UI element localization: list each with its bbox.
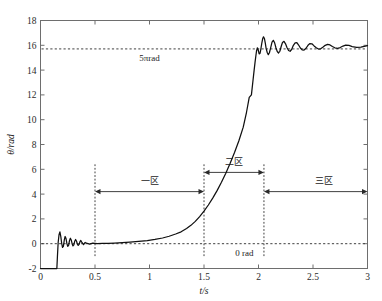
region-3-label: 三区 xyxy=(315,176,333,186)
axes-frame xyxy=(41,21,368,269)
region-2-label: 二区 xyxy=(225,157,243,167)
x-tick-label: 1 xyxy=(147,272,152,282)
region-1-arrow-head-right xyxy=(199,189,205,194)
y-tick-label: 2 xyxy=(32,214,37,224)
x-tick-label: 3 xyxy=(365,272,370,282)
chart-plot-area: -2024681012141618 00.511.522.53 5πrad0 r… xyxy=(0,0,382,301)
lower-setpoint-label: 0 rad xyxy=(235,248,254,258)
y-tick-label: 16 xyxy=(27,41,37,51)
y-tick-label: 14 xyxy=(27,66,37,76)
reference-line-labels: 5πrad0 rad xyxy=(139,53,254,258)
y-tick-label: 18 xyxy=(27,16,37,26)
region-3-arrow-head-left xyxy=(264,189,270,194)
region-1-arrow-head-left xyxy=(95,189,101,194)
y-axis-title: θ/rad xyxy=(6,134,16,155)
region-labels: 一区二区三区 xyxy=(141,157,333,186)
upper-setpoint-label: 5πrad xyxy=(139,53,160,63)
region-2-arrow-head-right xyxy=(258,170,264,175)
y-tick-label: 4 xyxy=(32,190,37,200)
x-tick-label: 0 xyxy=(38,272,43,282)
y-tick-label: 6 xyxy=(32,165,37,175)
chart-figure: -2024681012141618 00.511.522.53 5πrad0 r… xyxy=(0,0,382,301)
x-tick-label: 2 xyxy=(256,272,261,282)
x-tick-label: 1.5 xyxy=(198,272,210,282)
y-tick-label: 10 xyxy=(27,115,37,125)
x-axis-title: t/s xyxy=(200,286,209,296)
region-2-arrow-head-left xyxy=(204,170,210,175)
x-tick-label: 0.5 xyxy=(89,272,101,282)
plot-frame xyxy=(41,21,368,269)
y-tick-label: 0 xyxy=(32,239,37,249)
region-1-label: 一区 xyxy=(141,176,159,186)
x-axis-ticks: 00.511.522.53 xyxy=(38,21,370,282)
region-3-arrow-head-right xyxy=(362,189,368,194)
x-tick-label: 2.5 xyxy=(307,272,319,282)
y-tick-label: 12 xyxy=(27,90,37,100)
y-tick-label: 8 xyxy=(32,140,37,150)
reference-lines xyxy=(42,49,367,244)
y-tick-label: -2 xyxy=(29,264,37,274)
y-axis-ticks: -2024681012141618 xyxy=(27,16,368,274)
